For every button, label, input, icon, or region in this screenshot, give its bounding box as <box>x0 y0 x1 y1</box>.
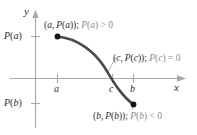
y-axis-arrowhead <box>32 10 38 18</box>
x-axis-label: x <box>174 82 179 93</box>
point-marker-a <box>55 34 61 40</box>
annotation-point-b: (b, P(b)); P(b) < 0 <box>93 112 162 122</box>
function-curve <box>58 37 134 105</box>
annotation-point-a: (a, P(a)); P(a) > 0 <box>44 21 113 31</box>
point-marker-b <box>131 102 137 108</box>
y-tick-label-pb: P(b) <box>4 98 22 108</box>
y-tick-label-pa: P(a) <box>4 31 22 41</box>
x-tick-label-a: a <box>54 84 59 94</box>
y-axis-label: y <box>24 6 29 17</box>
x-tick-label-b: b <box>130 84 135 94</box>
annotation-point-c: (c, P(c)); P(c) = 0 <box>113 54 180 64</box>
x-tick-label-c: c <box>109 84 113 94</box>
